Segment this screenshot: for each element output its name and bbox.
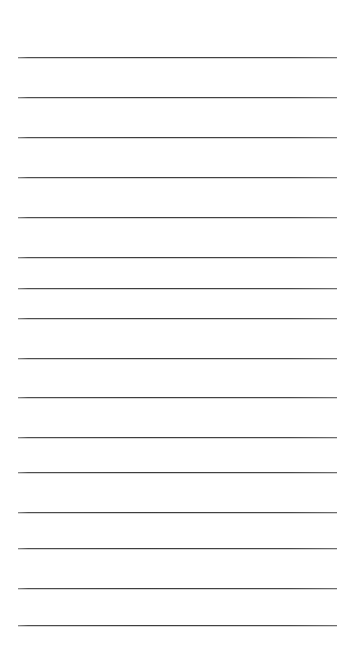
rule-line [18,177,337,178]
rule-line [18,57,337,58]
rule-line [18,257,337,258]
rule-line [18,512,337,513]
rule-line [18,217,337,218]
rule-line [18,472,337,473]
page-root [0,0,354,655]
rule-line [18,548,337,549]
rule-line [18,137,337,138]
rule-line [18,397,337,398]
rule-line [18,437,337,438]
rule-line [18,318,337,319]
rule-line [18,625,337,626]
rule-line [18,97,337,98]
rule-line [18,358,337,359]
rule-line [18,588,337,589]
rule-line [18,288,337,289]
ruled-paper-sheet [0,0,354,655]
